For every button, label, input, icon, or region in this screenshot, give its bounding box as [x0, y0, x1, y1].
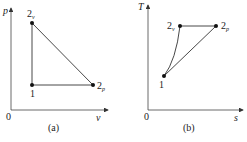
point-label-1-b: 1: [159, 80, 164, 90]
point-label-2p-b: 2p: [221, 21, 229, 34]
point-label-1-a: 1: [30, 89, 35, 99]
x-axis-label-b: s: [234, 113, 238, 123]
point-label-sub: v: [172, 26, 175, 32]
point-label-sub: p: [226, 26, 229, 32]
point-label-2v-a: 2v: [27, 9, 35, 22]
point-1-a: [30, 83, 34, 87]
connecting-line-a: [32, 23, 93, 85]
x-axis-label-a: v: [96, 113, 100, 123]
point-2p-b: [214, 24, 218, 28]
diagrams-canvas: [0, 0, 247, 142]
caption-b: (b): [183, 123, 195, 133]
y-axis-label-b: T: [138, 2, 144, 12]
point-1-b: [162, 74, 166, 78]
diagram-a-pv: [11, 8, 108, 110]
y-axis-label-a: p: [3, 6, 8, 16]
point-2p-a: [91, 83, 95, 87]
origin-label-b: 0: [144, 112, 149, 122]
point-label-sub: p: [102, 86, 105, 92]
point-2v-b: [178, 24, 182, 28]
point-label-2v-b: 2v: [167, 21, 175, 34]
origin-label-a: 0: [6, 112, 11, 122]
point-label-sub: v: [32, 14, 35, 20]
caption-a: (a): [48, 123, 59, 133]
point-label-2p-a: 2p: [97, 81, 105, 94]
